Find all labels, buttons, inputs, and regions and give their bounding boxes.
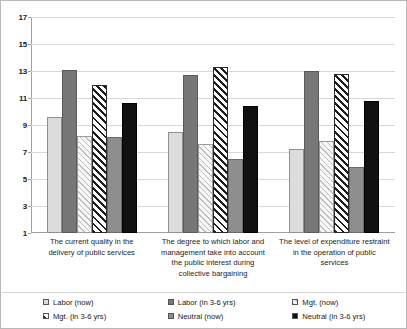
- legend-label: Neutral (in 3-6 yrs): [302, 312, 365, 321]
- legend-item[interactable]: Mgt. (in 3-6 yrs): [19, 312, 144, 321]
- legend-swatch-icon: [43, 313, 49, 319]
- y-axis-tick-label: 11: [19, 94, 27, 103]
- legend-swatch-icon: [292, 299, 298, 305]
- plot-area: 1715131197531: [31, 17, 395, 233]
- bar[interactable]: [304, 71, 319, 233]
- category-label: The degree to which labor and management…: [152, 237, 273, 291]
- chart-legend: Labor (now)Mgt. (in 3-6 yrs)Labor (in 3-…: [19, 295, 393, 323]
- bar-group: [152, 17, 273, 233]
- y-axis-tick-label: 1: [23, 229, 27, 238]
- bar[interactable]: [107, 137, 122, 233]
- legend-label: Mgt. (now): [302, 298, 338, 307]
- bar[interactable]: [168, 132, 183, 233]
- bar[interactable]: [243, 106, 258, 233]
- y-axis-tick-label: 9: [23, 121, 27, 130]
- bar-group: [274, 17, 395, 233]
- legend-label: Mgt. (in 3-6 yrs): [53, 312, 106, 321]
- bar[interactable]: [47, 117, 62, 233]
- y-axis-tick-label: 5: [23, 175, 27, 184]
- bar[interactable]: [122, 103, 137, 233]
- bar[interactable]: [349, 167, 364, 233]
- bar[interactable]: [77, 136, 92, 233]
- bar[interactable]: [198, 144, 213, 233]
- legend-item[interactable]: Neutral (now): [144, 312, 269, 321]
- bar-groups: [31, 17, 395, 233]
- legend-label: Labor (now): [53, 298, 94, 307]
- bar[interactable]: [228, 159, 243, 233]
- category-label: The level of expenditure restraint in th…: [274, 237, 395, 291]
- bar[interactable]: [62, 70, 77, 233]
- bar[interactable]: [364, 101, 379, 233]
- y-axis-tick-label: 13: [19, 67, 28, 76]
- y-axis-tickmark: [28, 233, 31, 234]
- legend-swatch-icon: [168, 313, 174, 319]
- legend-item[interactable]: Labor (in 3-6 yrs): [144, 298, 269, 307]
- legend-swatch-icon: [168, 299, 174, 305]
- bar-group: [31, 17, 152, 233]
- y-axis-tick-label: 17: [19, 13, 28, 22]
- legend-item[interactable]: Labor (now): [19, 298, 144, 307]
- category-axis-labels: The current quality in the delivery of p…: [31, 237, 395, 291]
- bar[interactable]: [183, 75, 198, 233]
- y-axis-tick-label: 3: [23, 202, 27, 211]
- bar[interactable]: [213, 67, 228, 233]
- category-label: The current quality in the delivery of p…: [31, 237, 152, 291]
- bar[interactable]: [289, 149, 304, 233]
- y-axis-tick-label: 7: [23, 148, 27, 157]
- chart-container: 1715131197531 The current quality in the…: [0, 0, 407, 329]
- legend-label: Labor (in 3-6 yrs): [178, 298, 236, 307]
- legend-item[interactable]: Mgt. (now): [268, 298, 393, 307]
- legend-label: Neutral (now): [178, 312, 224, 321]
- legend-item[interactable]: Neutral (in 3-6 yrs): [268, 312, 393, 321]
- bar[interactable]: [319, 141, 334, 233]
- bar[interactable]: [334, 74, 349, 233]
- legend-divider: [2, 292, 405, 293]
- bar[interactable]: [92, 85, 107, 234]
- legend-swatch-icon: [43, 299, 49, 305]
- y-axis-tick-label: 15: [19, 40, 28, 49]
- legend-swatch-icon: [292, 313, 298, 319]
